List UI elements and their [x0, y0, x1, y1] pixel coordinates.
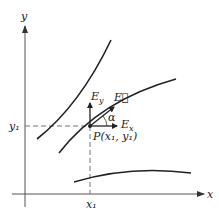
field-line-upper: [37, 40, 111, 139]
y-axis-label: y: [20, 10, 28, 23]
angle-arc: [103, 116, 107, 126]
ey-label: Ey: [90, 90, 104, 105]
point-p-label: P(x₁, y₁): [92, 130, 137, 143]
y1-label: y₁: [8, 120, 20, 133]
alpha-label: α: [108, 111, 116, 124]
e-label: E⃗: [113, 91, 129, 104]
x-axis-label: x: [207, 188, 214, 201]
field-line-lower: [74, 170, 191, 182]
x1-label: x₁: [86, 198, 97, 211]
field-line-diagram: y x Ey E⃗ α Ex P(x₁, y₁) y₁ x₁: [0, 0, 219, 220]
point-p: [88, 124, 92, 128]
